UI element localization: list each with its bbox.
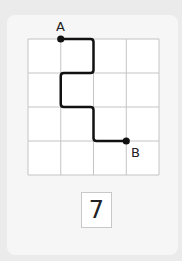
point-b-dot (123, 137, 130, 144)
answer-box[interactable]: 7 (81, 192, 112, 228)
answer-value: 7 (89, 196, 104, 224)
point-a-dot (57, 35, 64, 42)
label-a: A (56, 20, 65, 33)
label-b: B (131, 146, 140, 159)
